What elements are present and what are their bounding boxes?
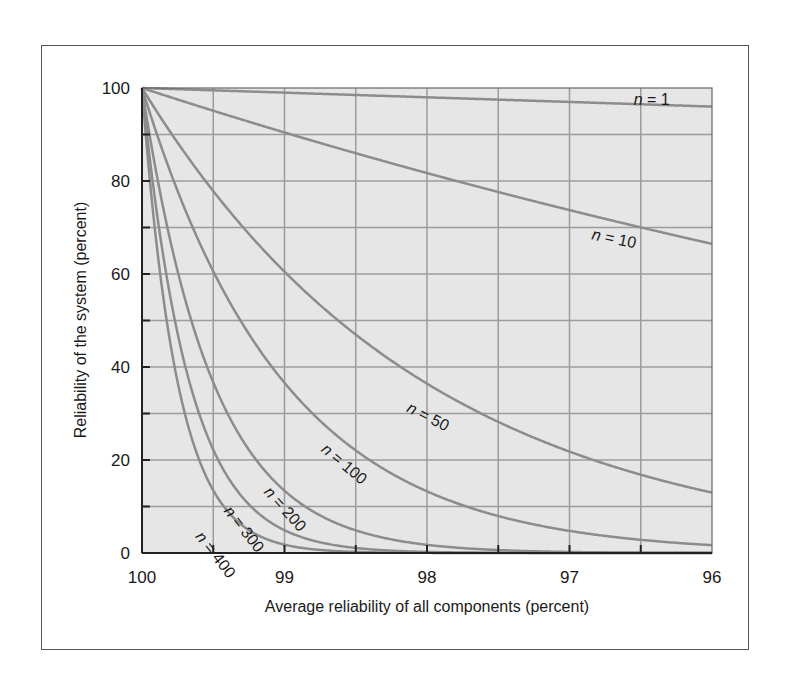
x-tick-label: 98 [418,568,437,587]
x-tick-label: 99 [275,568,294,587]
x-tick-label: 100 [128,568,156,587]
x-tick-label: 96 [703,568,722,587]
curve-label: n = 1 [634,91,670,108]
reliability-chart: n = 1n = 10n = 50n = 100n = 200n = 300n … [0,0,793,700]
y-tick-label: 80 [111,172,130,191]
y-tick-label: 20 [111,451,130,470]
x-axis-title: Average reliability of all components (p… [265,598,589,615]
y-tick-label: 40 [111,358,130,377]
y-axis-title: Reliability of the system (percent) [72,202,89,439]
y-tick-label: 60 [111,265,130,284]
x-tick-label: 97 [560,568,579,587]
y-tick-label: 100 [102,79,130,98]
y-tick-label: 0 [121,544,130,563]
